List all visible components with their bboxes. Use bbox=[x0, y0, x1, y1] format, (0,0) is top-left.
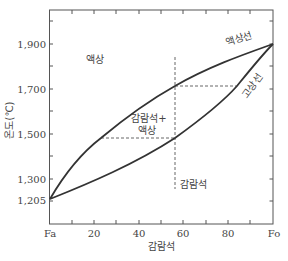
x-tick-40: 40 bbox=[133, 228, 146, 239]
y-tick-1500: 1,500 bbox=[17, 129, 46, 140]
x-tick-fo: Fo bbox=[268, 228, 280, 239]
region-two-phase-label-1: 감람석+ bbox=[131, 112, 166, 124]
x-tick-20: 20 bbox=[88, 228, 101, 239]
y-tick-1205: 1,205 bbox=[17, 195, 46, 206]
liquidus-label: 액상선 bbox=[224, 29, 253, 48]
y-tick-1700: 1,700 bbox=[17, 84, 46, 95]
region-two-phase-label-2: 액상 bbox=[138, 125, 156, 136]
region-liquid-label: 액상 bbox=[86, 54, 104, 65]
dashed-guides bbox=[101, 57, 237, 189]
x-tick-80: 80 bbox=[222, 228, 235, 239]
x-axis-title: 감람석 bbox=[148, 240, 175, 252]
solidus-label: 고상선 bbox=[240, 72, 264, 100]
x-tick-60: 60 bbox=[177, 228, 190, 239]
x-tick-fa: Fa bbox=[44, 228, 56, 239]
phase-diagram: 1,900 1,700 1,500 1,300 1,205 Fa 20 40 6… bbox=[0, 0, 288, 261]
y-tick-1900: 1,900 bbox=[17, 39, 46, 50]
y-tick-1300: 1,300 bbox=[17, 174, 46, 185]
x-ticks-bottom bbox=[72, 220, 250, 224]
y-axis-title: 온도(℃) bbox=[4, 101, 15, 138]
region-solid-label: 감람석 bbox=[180, 178, 207, 190]
x-ticks-top bbox=[72, 10, 250, 14]
y-ticks-left bbox=[50, 21, 54, 201]
